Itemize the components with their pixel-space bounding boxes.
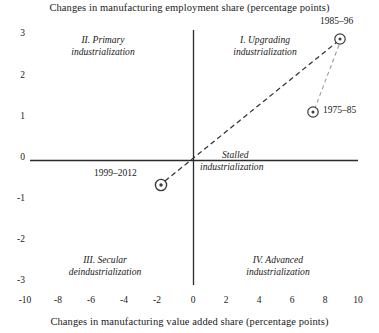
x-tick-minus-4: -4 [111, 295, 137, 305]
quadrant-label-i: I. Upgrading industrialization [210, 34, 320, 57]
quadrant-iii-line2: deindustrialization [45, 266, 165, 278]
y-tick-2: 2 [3, 70, 25, 80]
y-tick-minus-2: -2 [3, 234, 25, 244]
data-point-1985-96 [335, 34, 345, 44]
quadrant-iv-line1: IV. Advanced [218, 254, 338, 266]
quadrant-i-line2: industrialization [210, 46, 320, 58]
x-tick-0: 0 [180, 295, 206, 305]
quadrant-label-iii: III. Secular deindustrialization [45, 254, 165, 277]
x-tick-10: 10 [345, 295, 371, 305]
chart-container: Changes in manufacturing employment shar… [0, 0, 379, 333]
x-tick-8: 8 [312, 295, 338, 305]
data-point-1975-85 [308, 107, 318, 117]
quadrant-label-ii: II. Primary industrialization [48, 34, 158, 57]
quadrant-ii-line1: II. Primary [48, 34, 158, 46]
y-tick-minus-1: -1 [3, 193, 25, 203]
stalled-line1: Stalled [200, 149, 320, 161]
x-tick-2: 2 [213, 295, 239, 305]
point-label-1985-96: 1985–96 [320, 16, 353, 26]
y-tick-3: 3 [3, 28, 25, 38]
quadrant-iv-line2: industrialization [218, 266, 338, 278]
x-tick-minus-6: -6 [78, 295, 104, 305]
stalled-line2: industrialization [200, 161, 320, 173]
point-label-1975-85: 1975–85 [323, 105, 356, 115]
x-tick-minus-2: -2 [144, 295, 170, 305]
y-tick-minus-3: -3 [3, 275, 25, 285]
y-tick-1: 1 [3, 111, 25, 121]
y-tick-0: 0 [3, 152, 25, 162]
quadrant-iii-line1: III. Secular [45, 254, 165, 266]
quadrant-label-iv: IV. Advanced industrialization [218, 254, 338, 277]
data-point-1999-2012 [155, 179, 166, 190]
quadrant-label-stalled: Stalled industrialization [200, 149, 320, 172]
quadrant-ii-line2: industrialization [48, 46, 158, 58]
x-tick-minus-10: -10 [12, 295, 38, 305]
x-tick-6: 6 [279, 295, 305, 305]
point-label-1999-2012: 1999–2012 [94, 168, 137, 178]
x-tick-minus-8: -8 [45, 295, 71, 305]
quadrant-i-line1: I. Upgrading [210, 34, 320, 46]
x-tick-4: 4 [246, 295, 272, 305]
